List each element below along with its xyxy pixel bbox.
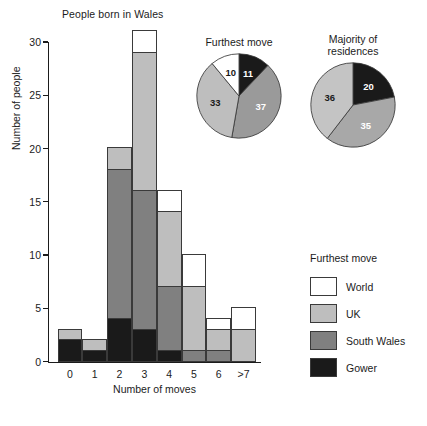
bar-stack <box>132 31 157 361</box>
pie-title-line: Majority of <box>328 33 379 45</box>
pie-slice-label: 11 <box>243 68 253 79</box>
bar-stack <box>82 340 107 361</box>
pie-slices: 203536 <box>310 62 396 148</box>
bar-segment-world <box>182 254 207 287</box>
pie-slice-label: 10 <box>225 67 236 78</box>
legend-entry: UK <box>310 300 422 327</box>
y-tick-mark <box>43 41 48 42</box>
legend: Furthest move WorldUKSouth WalesGower <box>310 252 422 381</box>
y-tick-mark <box>43 201 48 202</box>
bar-segment-world <box>132 30 157 52</box>
pie-title-line: residences <box>328 45 379 57</box>
x-tick-label: >7 <box>231 369 256 380</box>
y-tick-label: 10 <box>29 250 41 261</box>
pie-slice-label: 35 <box>361 120 372 131</box>
legend-entry: World <box>310 273 422 300</box>
y-tick-mark <box>43 254 48 255</box>
legend-entries: WorldUKSouth WalesGower <box>310 273 422 381</box>
bar-stack <box>206 319 231 362</box>
x-tick-label: 2 <box>107 369 132 380</box>
pie-title: Majority ofresidences <box>328 33 379 57</box>
y-tick-label: 15 <box>29 197 41 208</box>
bar-stack <box>231 308 256 361</box>
y-tick-label: 20 <box>29 144 41 155</box>
bar-segment-uk <box>182 286 207 351</box>
pie-chart: Furthest move11373310 <box>196 36 282 139</box>
legend-title: Furthest move <box>310 252 422 264</box>
y-tick-mark <box>43 308 48 309</box>
bar-segment-world <box>157 190 182 212</box>
bar-segment-south-wales <box>206 350 231 362</box>
legend-label: South Wales <box>346 335 405 347</box>
bar-segment-south-wales <box>182 350 207 362</box>
bar-segment-gower <box>157 350 182 362</box>
pie-slice-label: 37 <box>256 101 267 112</box>
bar-segment-gower <box>58 339 83 361</box>
pie-slice-label: 36 <box>325 92 336 103</box>
bar-segment-uk <box>58 329 83 341</box>
pie-title: Furthest move <box>205 36 272 48</box>
y-tick-mark <box>43 361 48 362</box>
legend-label: Gower <box>346 362 377 374</box>
legend-swatch-gower <box>310 358 337 377</box>
bar-stack <box>182 255 207 362</box>
bar-segment-south-wales <box>132 190 157 330</box>
x-tick-label: 3 <box>132 369 157 380</box>
pie-chart: Majority ofresidences203536 <box>310 33 396 148</box>
x-tick-label: 5 <box>182 369 207 380</box>
bar-segment-uk <box>231 329 256 362</box>
bar-segment-uk <box>157 211 182 287</box>
y-tick-label: 30 <box>29 37 41 48</box>
pie-slice-label: 20 <box>363 81 374 92</box>
y-tick-label: 0 <box>35 357 41 368</box>
legend-label: UK <box>346 308 361 320</box>
bar-segment-uk <box>107 147 132 169</box>
legend-swatch-uk <box>310 304 337 323</box>
y-tick-mark <box>43 95 48 96</box>
x-tick-label: 0 <box>58 369 83 380</box>
y-tick-label: 25 <box>29 90 41 101</box>
bar-stack <box>58 330 83 362</box>
bar-segment-south-wales <box>157 286 182 351</box>
bar-segment-gower <box>132 329 157 362</box>
bar-segment-uk <box>82 339 107 351</box>
bar-segment-world <box>206 318 231 330</box>
bar-segment-south-wales <box>107 169 132 319</box>
y-axis-title: Number of people <box>10 67 22 150</box>
x-axis-line <box>48 362 261 363</box>
legend-swatch-south-wales <box>310 331 337 350</box>
bar-segment-gower <box>82 350 107 362</box>
y-tick-label: 5 <box>35 303 41 314</box>
legend-entry: South Wales <box>310 327 422 354</box>
x-tick-label: 1 <box>82 369 107 380</box>
bar-stack <box>157 191 182 361</box>
y-tick-mark <box>43 148 48 149</box>
legend-label: World <box>346 281 373 293</box>
pie-slices: 11373310 <box>196 53 282 139</box>
x-tick-label: 4 <box>157 369 182 380</box>
bar-segment-world <box>231 307 256 329</box>
bar-segment-uk <box>132 52 157 192</box>
pie-slice-label: 33 <box>210 97 221 108</box>
bar-segment-gower <box>107 318 132 362</box>
x-tick-label: 6 <box>206 369 231 380</box>
chart-title: People born in Wales <box>62 8 163 20</box>
bar-segment-uk <box>206 329 231 351</box>
pie-title-line: Furthest move <box>205 36 272 48</box>
legend-swatch-world <box>310 277 337 296</box>
legend-entry: Gower <box>310 354 422 381</box>
y-axis-line <box>48 42 49 363</box>
chart-canvas: People born in Wales 051015202530 012345… <box>0 0 427 426</box>
x-axis-title: Number of moves <box>113 383 196 395</box>
bar-stack <box>107 149 132 362</box>
